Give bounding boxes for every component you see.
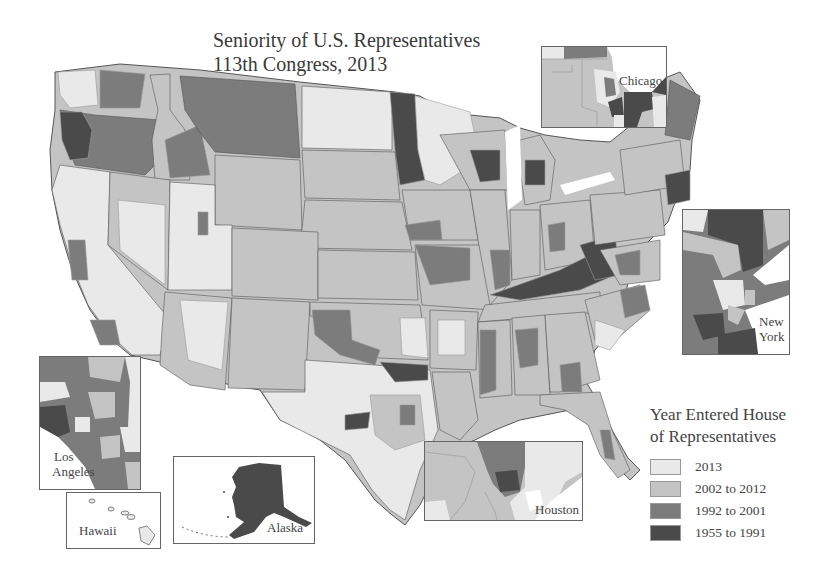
alaska-inset: Alaska [173,456,315,544]
los-angeles-label-line-2: Angeles [52,464,95,479]
los-angeles-label-line-1: Los [52,449,95,464]
legend-swatch-2002-2012 [650,481,681,497]
hawaii-label: Hawaii [79,523,117,538]
legend-swatch-1992-2001 [650,503,681,519]
legend: Year Entered House of Representatives 20… [650,404,786,544]
legend-item-1992-2001: 1992 to 2001 [650,500,786,522]
houston-label: Houston [535,502,579,517]
legend-title-line-1: Year Entered House [650,404,786,426]
alaska-label: Alaska [267,520,303,535]
chicago-label: Chicago [619,73,662,88]
legend-label: 1992 to 2001 [695,503,766,519]
new-york-label: New York [759,314,784,344]
legend-item-2002-2012: 2002 to 2012 [650,478,786,500]
hawaii-inset: Hawaii [66,492,161,549]
legend-items: 2013 2002 to 2012 1992 to 2001 1955 to 1… [650,456,786,544]
hawaii-inset-map [67,493,160,548]
legend-swatch-2013 [650,459,681,475]
los-angeles-label: Los Angeles [52,449,95,479]
houston-inset: Houston [424,441,583,521]
new-york-label-line-2: York [759,329,784,344]
legend-label: 2002 to 2012 [695,481,766,497]
legend-item-1955-1991: 1955 to 1991 [650,522,786,544]
legend-label: 1955 to 1991 [695,525,766,541]
los-angeles-inset: Los Angeles [39,356,141,490]
legend-title: Year Entered House of Representatives [650,404,786,448]
legend-title-line-2: of Representatives [650,426,786,448]
legend-swatch-1955-1991 [650,525,681,541]
new-york-label-line-1: New [759,314,784,329]
legend-item-2013: 2013 [650,456,786,478]
chicago-inset: Chicago [541,46,667,128]
new-york-inset: New York [682,209,790,355]
legend-label: 2013 [695,459,722,475]
